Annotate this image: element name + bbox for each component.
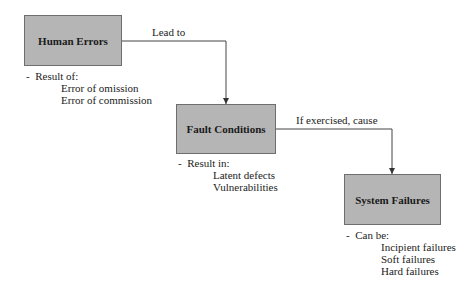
note-item: Incipient failures [346,241,456,253]
edge-label-lead-to: Lead to [152,26,185,38]
node-human-errors: Human Errors [24,15,122,66]
note-item: Hard failures [346,265,456,277]
bullet: - [346,229,350,241]
note-head: Can be: [355,229,389,241]
note-item: Vulnerabilities [178,181,278,193]
note-item: Latent defects [178,169,278,181]
node-system-failures: System Failures [344,174,441,225]
node-fault-conditions: Fault Conditions [176,104,276,154]
note-head: Result of: [35,70,78,82]
note-fault-conditions: - Result in: Latent defects Vulnerabilit… [178,157,278,193]
edge-fault-to-system [276,129,392,174]
note-item: Error of commission [26,94,152,106]
note-item: Error of omission [26,82,152,94]
bullet: - [178,157,182,169]
node-label: Fault Conditions [186,123,265,135]
node-label: Human Errors [38,35,108,47]
note-system-failures: - Can be: Incipient failures Soft failur… [346,229,456,277]
note-human-errors: - Result of: Error of omission Error of … [26,70,152,106]
note-head: Result in: [187,157,229,169]
note-item: Soft failures [346,253,456,265]
edge-label-if-exercised: If exercised, cause [296,114,378,126]
bullet: - [26,70,30,82]
node-label: System Failures [355,194,430,206]
